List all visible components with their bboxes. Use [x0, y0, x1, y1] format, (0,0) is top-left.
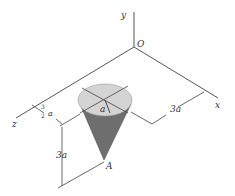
x-axis	[134, 47, 218, 98]
offset-var: a	[48, 109, 53, 118]
x-distance-label: 3a	[170, 104, 181, 114]
height-label: 3a	[56, 150, 67, 160]
cone-diagram: y O x z a 3 2 a 3a 3a A	[0, 0, 235, 196]
offset-den: 2	[41, 112, 45, 119]
offset-num: 3	[41, 103, 45, 110]
origin-label: O	[137, 39, 145, 49]
y-axis-label: y	[120, 10, 127, 20]
diagram-svg: y O x z a 3 2 a 3a 3a A	[0, 0, 235, 196]
z-axis-label: z	[11, 119, 17, 129]
x-axis-label: x	[215, 100, 220, 110]
apex-label: A	[105, 161, 113, 171]
radius-label: a	[100, 104, 105, 114]
